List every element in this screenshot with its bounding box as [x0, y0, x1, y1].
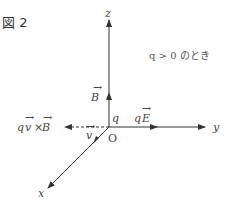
- b-vector-arrowhead: [106, 92, 112, 100]
- charge-label: q: [112, 112, 119, 125]
- z-axis-label: z: [104, 7, 111, 20]
- lorentz-v-arrow-mark: →: [25, 111, 34, 124]
- qe-vector-arrowhead: [150, 124, 158, 130]
- lorentz-b-arrow-mark: →: [43, 111, 52, 124]
- qe-label-arrow-mark: →: [142, 102, 151, 115]
- coordinate-diagram: z B → y q E → x v → q v × B → → q O q > …: [0, 0, 231, 205]
- origin-label: O: [108, 132, 117, 145]
- x-axis: [48, 127, 109, 188]
- x-axis-label: x: [38, 187, 45, 200]
- b-vector-arrow-mark: →: [93, 81, 102, 94]
- condition-note: q > 0 のとき: [149, 50, 210, 61]
- y-axis-label: y: [212, 121, 220, 134]
- qe-label-q: q: [134, 112, 141, 125]
- lorentz-label-q: q: [17, 121, 24, 134]
